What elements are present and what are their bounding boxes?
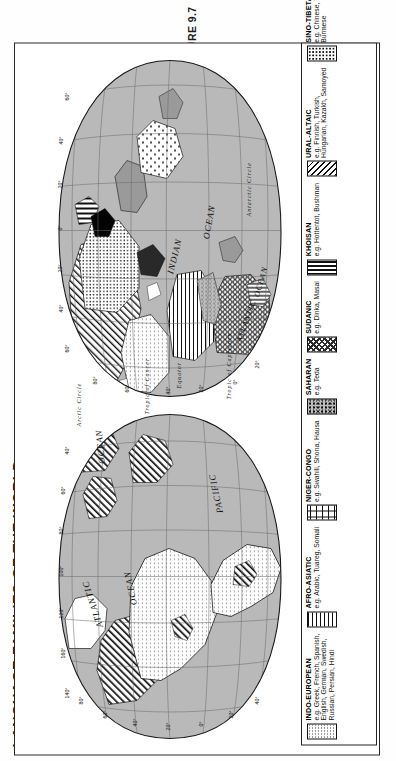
graticule-tick-label: 140° (64, 687, 70, 698)
legend-example-line: e.g. Finnish, Turkish, (313, 67, 320, 157)
legend-family-name: SUDANIC (306, 281, 313, 334)
legend-family-name: NIGER-CONGO (306, 420, 313, 502)
legend-swatch-icon (307, 259, 337, 275)
legend-example-line: e.g. Hottentot, Bushman (313, 183, 320, 256)
graticule-tick-label: 40° (165, 386, 171, 394)
graticule-tick-label: 20° (57, 180, 63, 188)
legend-swatch-icon (307, 161, 337, 177)
graticule-tick-label: 60° (60, 486, 66, 494)
legend-family-name: INDO-EUROPEAN (306, 633, 313, 720)
legend-text: KHOISANe.g. Hottentot, Bushman (306, 183, 320, 256)
legend-example-line: e.g. Teda (313, 358, 320, 395)
legend-item: SAHARANe.g. Teda (306, 352, 337, 414)
legend-item: KHOISANe.g. Hottentot, Bushman (306, 177, 337, 275)
graticule-tick-label: 40° (254, 696, 260, 704)
legend-item: SINO-TIBETANe.g. Chinese, Tibetan, Thai,… (306, 0, 337, 61)
map-legend: INDO-EUROPEANe.g. Greek, French, Spanish… (301, 42, 377, 745)
graticule-tick-label: 100° (58, 565, 64, 576)
graticule-tick-label: 20° (228, 710, 234, 718)
legend-swatch-icon (307, 336, 337, 352)
reference-line-label: Equator (176, 361, 182, 389)
reference-line-label: Arctic Circle (76, 382, 82, 427)
reference-line-label: Antarctic Circle (246, 162, 252, 217)
legend-example-line: e.g. Chinese, Tibetan, Thai, (313, 0, 320, 42)
legend-item: NIGER-CONGOe.g. Swahili, Shona, Hausa (306, 414, 337, 521)
legend-item: SUDANICe.g. Dinka, Masai (306, 275, 337, 353)
legend-item: URAL-ALTAICe.g. Finnish, Turkish,Hungari… (306, 61, 337, 176)
legend-example-line: e.g. Dinka, Masai (313, 281, 320, 334)
legend-example-line: Burmese (320, 0, 327, 42)
graticule-tick-label: 20° (165, 722, 171, 730)
legend-item: AFRO-ASIATICe.g. Arabic, Tuareg, Somali (306, 520, 337, 627)
legend-example-line: English, German, Swedish, (320, 633, 327, 720)
graticule-tick-label: 60° (102, 710, 108, 718)
legend-swatch-icon (307, 611, 337, 627)
graticule-tick-label: 20° (198, 384, 204, 392)
legend-example-line: e.g. Arabic, Tuareg, Somali (313, 526, 320, 608)
legend-family-name: SAHARAN (306, 358, 313, 395)
graticule-tick-label: 40° (132, 718, 138, 726)
legend-family-name: URAL-ALTAIC (306, 67, 313, 157)
figure-frame: ATLANTICOCEANPACIFICOCEANINDIANOCEANATLA… (14, 42, 380, 755)
graticule-tick-label: 40° (58, 304, 64, 312)
graticule-tick-label: 0° (57, 225, 63, 230)
legend-text: SAHARANe.g. Teda (306, 358, 320, 395)
legend-family-name: SINO-TIBETAN (306, 0, 313, 42)
legend-text: SINO-TIBETANe.g. Chinese, Tibetan, Thai,… (306, 0, 328, 42)
graticule-tick-label: 20° (254, 360, 260, 368)
graticule-tick-label: 0° (232, 379, 238, 384)
graticule-tick-label: 80° (78, 696, 84, 704)
graticule-tick-label: 40° (64, 446, 70, 454)
graticule-tick-label: 60° (124, 384, 130, 392)
graticule-tick-label: 80° (58, 526, 64, 534)
legend-example-line: Russian, Persian, Hindi (328, 633, 335, 720)
legend-swatch-icon (307, 723, 337, 739)
graticule-tick-label: 80° (92, 376, 98, 384)
legend-item: INDO-EUROPEANe.g. Greek, French, Spanish… (306, 627, 337, 739)
legend-text: URAL-ALTAICe.g. Finnish, Turkish,Hungari… (306, 67, 328, 157)
graticule-tick-label: 20° (57, 264, 63, 272)
legend-swatch-icon (307, 398, 337, 414)
legend-example-line: e.g. Swahili, Shona, Hausa (313, 420, 320, 502)
graticule-tick-label: 160° (60, 647, 66, 658)
legend-text: NIGER-CONGOe.g. Swahili, Shona, Hausa (306, 420, 320, 502)
graticule-tick-label: 0° (198, 721, 204, 726)
reference-line-label: Tropic of Cancer (144, 357, 150, 414)
graticule-tick-label: 60° (64, 344, 70, 352)
legend-swatch-icon (307, 45, 337, 61)
legend-example-line: e.g. Greek, French, Spanish, (313, 633, 320, 720)
legend-text: AFRO-ASIATICe.g. Arabic, Tuareg, Somali (306, 526, 320, 608)
figure-page: LANGUAGE FAMILIES OF THE WORLD FIGURE 9.… (0, 0, 396, 761)
legend-example-line: Hungarian, Kazakh, Samoyed (320, 67, 327, 157)
legend-family-name: KHOISAN (306, 183, 313, 256)
legend-text: SUDANICe.g. Dinka, Masai (306, 281, 320, 334)
graticule-tick-label: 60° (64, 92, 70, 100)
reference-line-label: Tropic of Capricorn (226, 332, 232, 399)
world-map: ATLANTICOCEANPACIFICOCEANINDIANOCEANATLA… (45, 51, 295, 744)
legend-text: INDO-EUROPEANe.g. Greek, French, Spanish… (306, 633, 335, 720)
legend-family-name: AFRO-ASIATIC (306, 526, 313, 608)
graticule-tick-label: 40° (58, 136, 64, 144)
graticule-tick-label: 120° (58, 607, 64, 618)
rotated-figure-canvas: LANGUAGE FAMILIES OF THE WORLD FIGURE 9.… (0, 0, 396, 761)
legend-swatch-icon (307, 504, 337, 520)
